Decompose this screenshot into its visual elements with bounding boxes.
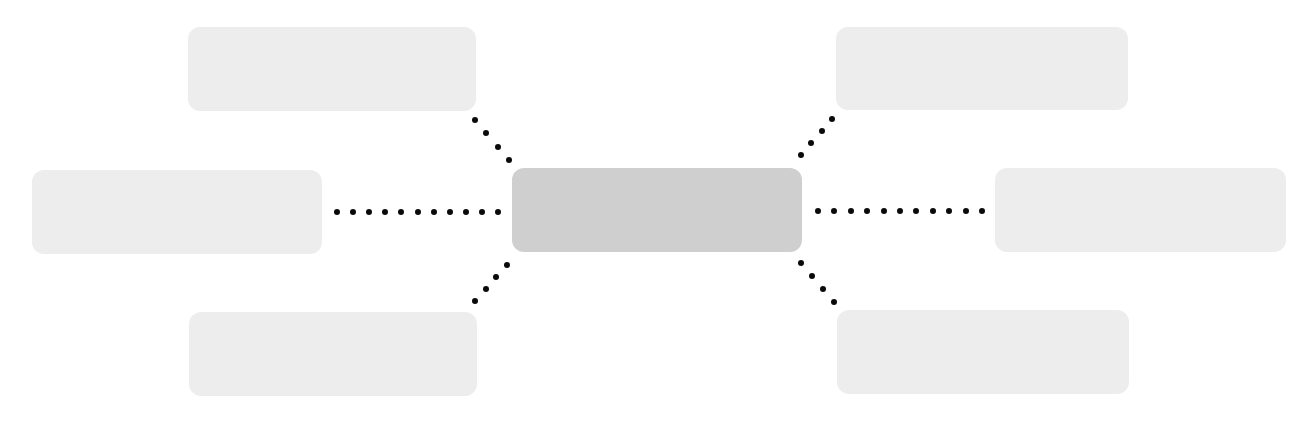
connector-dot <box>819 128 825 134</box>
connector-dot <box>504 262 510 268</box>
connector-dot <box>431 209 437 215</box>
connector-dot <box>366 209 372 215</box>
connector-dot <box>930 208 936 214</box>
connector-dot <box>483 130 489 136</box>
connector-dot <box>382 209 388 215</box>
connector-dot <box>913 208 919 214</box>
connector-dot <box>472 298 478 304</box>
connector-dot <box>495 144 501 150</box>
connector-dot <box>815 208 821 214</box>
connector-dot <box>808 140 814 146</box>
connector-dot <box>881 208 887 214</box>
node-bottom-right <box>837 310 1129 394</box>
connector-dot <box>864 208 870 214</box>
connector-dot <box>479 209 485 215</box>
connector-dot <box>848 208 854 214</box>
connector-dot <box>447 209 453 215</box>
connector-dot <box>809 273 815 279</box>
connector-dot <box>415 209 421 215</box>
node-right <box>995 168 1286 252</box>
connector-dot <box>979 208 985 214</box>
mind-map-diagram <box>0 0 1312 429</box>
connector-dot <box>398 209 404 215</box>
connector-dot <box>831 208 837 214</box>
connector-dot <box>495 209 501 215</box>
node-top-right <box>836 27 1128 110</box>
connector-dot <box>946 208 952 214</box>
connector-dot <box>798 152 804 158</box>
connector-dot <box>506 157 512 163</box>
connector-dot <box>820 286 826 292</box>
connector-dot <box>963 208 969 214</box>
node-top-left <box>188 27 476 111</box>
center-node <box>512 168 802 252</box>
connector-dot <box>350 209 356 215</box>
connector-dot <box>831 299 837 305</box>
connector-dot <box>897 208 903 214</box>
connector-dot <box>829 116 835 122</box>
node-bottom-left <box>189 312 477 396</box>
connector-dot <box>483 286 489 292</box>
connector-dot <box>334 209 340 215</box>
connector-dot <box>463 209 469 215</box>
connector-dot <box>493 274 499 280</box>
connector-dot <box>798 260 804 266</box>
connector-dot <box>472 117 478 123</box>
node-left <box>32 170 322 254</box>
